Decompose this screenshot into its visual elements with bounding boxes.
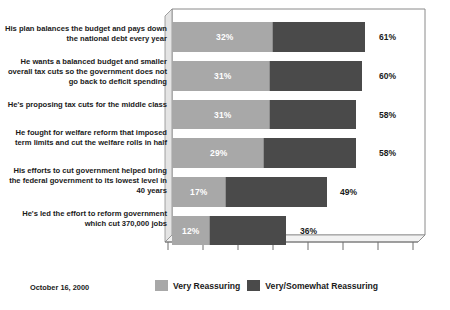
category-label-3: He fought for welfare reform that impose… xyxy=(4,128,167,148)
stacked-bar: 29% xyxy=(172,138,356,168)
legend-swatch-very-somewhat-icon xyxy=(247,280,260,291)
category-label-4: His efforts to cut government helped bri… xyxy=(4,166,167,197)
bar-total-label: 60% xyxy=(379,71,396,81)
legend-swatch-very-icon xyxy=(155,280,168,291)
stacked-bar: 32% xyxy=(172,22,365,52)
bar-inner-label: 29% xyxy=(210,148,228,158)
bar-row: 31% 58% xyxy=(172,100,425,129)
chart-legend: Very Reassuring Very/Somewhat Reassuring xyxy=(155,280,378,291)
bar-total-label: 61% xyxy=(379,32,396,42)
bar-row: 31% 60% xyxy=(172,61,425,91)
legend-label-very-somewhat: Very/Somewhat Reassuring xyxy=(265,281,378,291)
chart-date: October 16, 2000 xyxy=(30,283,89,292)
bar-total-label: 36% xyxy=(300,226,317,236)
stacked-bar: 12% xyxy=(172,216,286,245)
bar-row: 17% 49% xyxy=(172,177,425,207)
category-label-2: He's proposing tax cuts for the middle c… xyxy=(4,100,167,110)
legend-item-very: Very Reassuring xyxy=(155,280,240,291)
chart-root: His plan balances the budget and pays do… xyxy=(0,0,450,310)
bar-inner-label: 12% xyxy=(182,226,200,236)
bar-inner-label: 31% xyxy=(214,110,232,120)
bar-row: 32% 61% xyxy=(172,22,425,52)
bar-row: 29% 58% xyxy=(172,138,425,168)
bar-inner-label: 32% xyxy=(216,32,234,42)
legend-label-very: Very Reassuring xyxy=(173,281,240,291)
bar-inner-label: 17% xyxy=(190,187,208,197)
bar-total-label: 58% xyxy=(379,110,396,120)
bar-row: 12% 36% xyxy=(172,216,425,245)
category-label-0: His plan balances the budget and pays do… xyxy=(4,24,167,44)
stacked-bar: 17% xyxy=(172,177,327,207)
stacked-bar: 31% xyxy=(172,61,362,91)
legend-item-very-somewhat: Very/Somewhat Reassuring xyxy=(247,280,378,291)
category-label-1: He wants a balanced budget and smaller o… xyxy=(4,57,167,88)
bar-total-label: 49% xyxy=(340,187,357,197)
stacked-bar: 31% xyxy=(172,100,356,129)
plot-area: 32% 61% 31% 60% 31% 58% 29% xyxy=(172,9,425,235)
category-label-5: He's led the effort to reform government… xyxy=(4,209,167,229)
bar-total-label: 58% xyxy=(379,148,396,158)
bar-inner-label: 31% xyxy=(214,71,232,81)
